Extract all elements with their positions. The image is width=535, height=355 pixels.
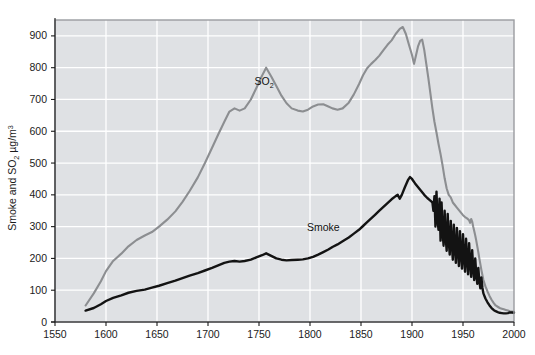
chart-container: 1550160016501700175018001850190019502000… — [0, 0, 535, 355]
y-axis-tick-label: 200 — [29, 252, 47, 264]
x-axis-tick-label: 1950 — [451, 328, 475, 340]
y-axis-tick-label: 900 — [29, 29, 47, 41]
line-chart: 1550160016501700175018001850190019502000… — [0, 0, 535, 355]
x-axis-tick-label: 1750 — [247, 328, 271, 340]
x-axis-tick-label: 1650 — [145, 328, 169, 340]
x-axis: 1550160016501700175018001850190019502000 — [43, 322, 526, 340]
y-axis-tick-label: 500 — [29, 157, 47, 169]
y-axis: 0100200300400500600700800900 — [29, 18, 55, 328]
x-axis-tick-label: 1900 — [400, 328, 424, 340]
x-axis-tick-label: 2000 — [502, 328, 526, 340]
y-axis-tick-label: 800 — [29, 61, 47, 73]
y-axis-title-group: Smoke and SO2 µg/m3 — [6, 125, 21, 231]
y-axis-tick-label: 700 — [29, 93, 47, 105]
y-axis-tick-label: 0 — [41, 316, 47, 328]
x-axis-tick-label: 1850 — [349, 328, 373, 340]
y-axis-tick-label: 100 — [29, 284, 47, 296]
annotation-smoke: Smoke — [307, 221, 340, 233]
x-axis-tick-label: 1800 — [298, 328, 322, 340]
y-axis-tick-label: 400 — [29, 188, 47, 200]
x-axis-tick-label: 1600 — [94, 328, 118, 340]
y-axis-title: Smoke and SO2 µg/m3 — [6, 125, 21, 231]
x-axis-tick-label: 1700 — [196, 328, 220, 340]
plot-area-background — [55, 20, 514, 322]
y-axis-tick-label: 600 — [29, 125, 47, 137]
plot-background-group — [55, 20, 514, 322]
x-axis-tick-label: 1550 — [43, 328, 67, 340]
y-axis-tick-label: 300 — [29, 220, 47, 232]
